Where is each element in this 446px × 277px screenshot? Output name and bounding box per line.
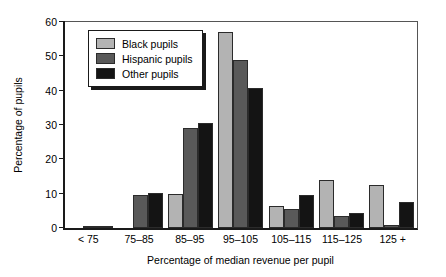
bar xyxy=(198,123,213,228)
x-axis-label: Percentage of median revenue per pupil xyxy=(63,254,418,266)
y-axis-tick-label: 40 xyxy=(25,83,57,99)
bar xyxy=(248,88,263,228)
y-axis-tick-label: 20 xyxy=(25,151,57,167)
bar xyxy=(319,180,334,228)
x-axis-tick-label: 115–125 xyxy=(317,233,368,245)
bar-group xyxy=(367,22,417,228)
legend-swatch-black-pupils xyxy=(96,38,115,49)
bar-chart: Percentage of pupils 0102030405060 < 757… xyxy=(0,0,446,277)
bar xyxy=(98,226,113,228)
bar xyxy=(284,209,299,228)
bar xyxy=(83,226,98,228)
x-axis-tick-label: 85–95 xyxy=(164,233,215,245)
bar xyxy=(168,194,183,228)
y-axis-tick-label: 10 xyxy=(25,186,57,202)
legend-item: Hispanic pupils xyxy=(96,51,193,66)
y-axis-tick-label: 0 xyxy=(25,220,57,236)
legend-label: Black pupils xyxy=(122,38,178,50)
y-axis-label: Percentage of pupils xyxy=(12,77,24,173)
legend-item: Black pupils xyxy=(96,36,193,51)
x-axis-tick-label: 95–105 xyxy=(215,233,266,245)
bar xyxy=(218,32,233,228)
x-axis-tick-label: 125 + xyxy=(367,233,418,245)
x-axis-tick-labels: < 7575–8585–9595–105105–115115–125125 + xyxy=(63,233,418,245)
legend: Black pupils Hispanic pupils Other pupil… xyxy=(88,30,203,87)
legend-label: Hispanic pupils xyxy=(122,53,193,65)
bar-group xyxy=(316,22,366,228)
bar xyxy=(399,202,414,228)
y-axis-tick-label: 60 xyxy=(25,14,57,30)
bar xyxy=(233,60,248,228)
bar xyxy=(384,225,399,228)
legend-swatch-hispanic-pupils xyxy=(96,53,115,64)
bar xyxy=(299,195,314,228)
x-axis-tick-label: 105–115 xyxy=(266,233,317,245)
y-axis-tick-label: 50 xyxy=(25,48,57,64)
bar xyxy=(269,206,284,228)
x-axis-tick-label: < 75 xyxy=(63,233,114,245)
legend-item: Other pupils xyxy=(96,66,193,81)
bar xyxy=(133,195,148,228)
bar xyxy=(369,185,384,228)
bar xyxy=(183,128,198,228)
bar-group xyxy=(216,22,266,228)
legend-label: Other pupils xyxy=(122,68,179,80)
bar xyxy=(349,213,364,228)
x-axis-tick-label: 75–85 xyxy=(114,233,165,245)
legend-swatch-other-pupils xyxy=(96,68,115,79)
y-axis-tick-label: 30 xyxy=(25,117,57,133)
bar-group xyxy=(266,22,316,228)
bar xyxy=(148,193,163,228)
bar xyxy=(334,216,349,228)
